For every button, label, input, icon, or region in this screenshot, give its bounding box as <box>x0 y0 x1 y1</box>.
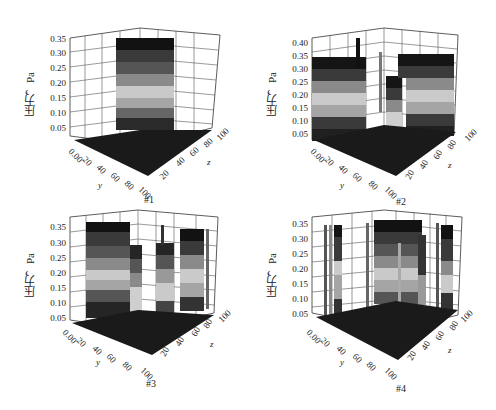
svg-text:0.15: 0.15 <box>50 93 66 103</box>
panel-1: 0.35 0.30 0.25 0.20 0.15 0.10 0.05 0.00 … <box>0 0 248 205</box>
y-axis-label: 压力，Pa <box>264 72 280 116</box>
svg-text:0.20: 0.20 <box>292 264 308 274</box>
svg-text:60: 60 <box>351 351 365 365</box>
y-axis-label: 压力，Pa <box>264 253 280 297</box>
panel-3: 0.35 0.30 0.25 0.20 0.15 0.10 0.05 0.00 … <box>0 205 248 410</box>
svg-text:0.40: 0.40 <box>292 38 308 48</box>
panel-caption: #1 <box>129 194 169 205</box>
svg-text:80: 80 <box>201 136 215 150</box>
svg-text:0.10: 0.10 <box>292 294 308 304</box>
svg-text:20: 20 <box>403 168 416 181</box>
svg-text:40: 40 <box>337 162 351 176</box>
svg-text:40: 40 <box>91 343 105 357</box>
svg-text:0.20: 0.20 <box>292 90 308 100</box>
svg-text:100: 100 <box>462 126 479 143</box>
svg-text:0.35: 0.35 <box>292 219 308 229</box>
svg-text:20: 20 <box>157 168 171 182</box>
svg-text:0.05: 0.05 <box>292 309 308 319</box>
svg-text:60: 60 <box>431 148 444 161</box>
svg-text:0.35: 0.35 <box>292 51 308 61</box>
svg-text:0.10: 0.10 <box>50 108 66 118</box>
svg-text:0.30: 0.30 <box>50 48 66 58</box>
svg-text:0.05: 0.05 <box>50 313 66 323</box>
svg-text:0.15: 0.15 <box>50 283 66 293</box>
svg-text:0.05: 0.05 <box>292 129 308 139</box>
svg-text:0.30: 0.30 <box>292 234 308 244</box>
svg-text:60: 60 <box>433 329 446 342</box>
chart-4-plot: 0.35 0.30 0.25 0.20 0.15 0.10 0.05 0.00 … <box>248 205 496 410</box>
svg-text:100: 100 <box>216 307 233 324</box>
chart-2-plot: 0.40 0.35 0.30 0.25 0.20 0.15 0.10 0.05 … <box>248 0 496 205</box>
svg-text:z: z <box>447 160 452 170</box>
svg-text:0.25: 0.25 <box>50 63 66 73</box>
panel-2: 0.40 0.35 0.30 0.25 0.20 0.15 0.10 0.05 … <box>248 0 496 205</box>
y-axis-label: 压力，Pa <box>22 253 38 297</box>
svg-text:0.20: 0.20 <box>50 78 66 88</box>
y-axis-label: 压力，Pa <box>22 72 38 116</box>
svg-text:60: 60 <box>351 170 365 184</box>
svg-text:0.15: 0.15 <box>292 279 308 289</box>
svg-text:0.30: 0.30 <box>50 238 66 248</box>
svg-text:100: 100 <box>214 125 231 142</box>
svg-text:y: y <box>339 357 344 367</box>
svg-text:0.10: 0.10 <box>292 116 308 126</box>
svg-text:100: 100 <box>458 307 475 324</box>
svg-text:80: 80 <box>445 138 458 151</box>
svg-text:80: 80 <box>123 178 137 192</box>
svg-text:y: y <box>339 180 344 190</box>
svg-text:z: z <box>209 339 214 349</box>
svg-text:z: z <box>447 345 452 355</box>
svg-text:0.05: 0.05 <box>50 123 66 133</box>
svg-text:0.25: 0.25 <box>292 249 308 259</box>
svg-text:0.25: 0.25 <box>50 253 66 263</box>
svg-text:40: 40 <box>417 158 430 171</box>
chart-3-plot: 0.35 0.30 0.25 0.20 0.15 0.10 0.05 0.00 … <box>0 205 248 410</box>
svg-text:40: 40 <box>335 343 349 357</box>
svg-text:60: 60 <box>187 145 201 159</box>
svg-text:40: 40 <box>173 155 187 169</box>
svg-text:80: 80 <box>447 319 460 332</box>
panel-caption: #3 <box>131 378 171 389</box>
svg-text:100: 100 <box>383 365 400 382</box>
svg-text:80: 80 <box>121 359 135 373</box>
svg-text:80: 80 <box>367 178 381 192</box>
svg-text:y: y <box>95 357 100 367</box>
svg-text:y: y <box>97 180 102 190</box>
svg-text:0.20: 0.20 <box>50 268 66 278</box>
svg-text:0.25: 0.25 <box>292 77 308 87</box>
svg-text:0.15: 0.15 <box>292 103 308 113</box>
svg-text:0.10: 0.10 <box>50 298 66 308</box>
svg-text:40: 40 <box>95 162 109 176</box>
svg-text:0.35: 0.35 <box>50 222 66 232</box>
panel-4: 0.35 0.30 0.25 0.20 0.15 0.10 0.05 0.00 … <box>248 205 496 410</box>
svg-text:80: 80 <box>365 359 379 373</box>
svg-text:0.35: 0.35 <box>50 34 66 44</box>
svg-text:0.30: 0.30 <box>292 64 308 74</box>
svg-text:60: 60 <box>109 170 123 184</box>
svg-text:60: 60 <box>105 351 119 365</box>
panel-caption: #4 <box>381 383 421 394</box>
svg-text:z: z <box>206 157 211 167</box>
